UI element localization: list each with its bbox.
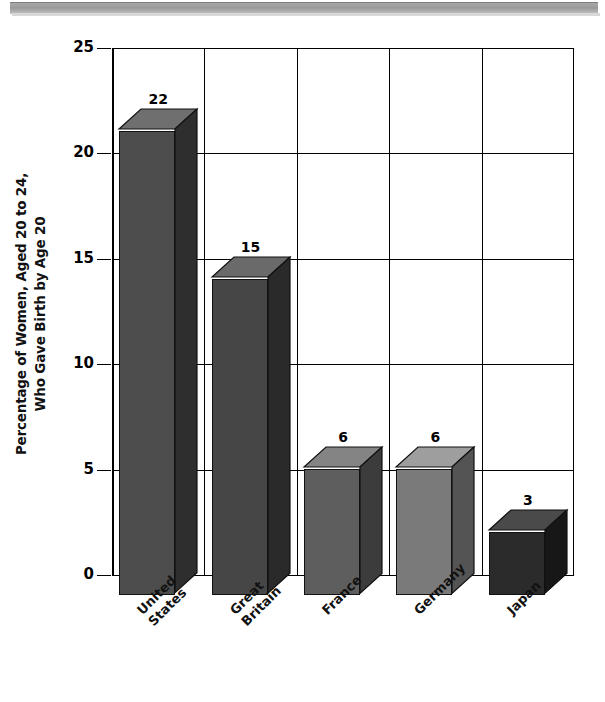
y-axis-tick — [97, 259, 111, 260]
y-axis-tick — [97, 470, 111, 471]
y-axis-tick-label: 20 — [34, 143, 94, 161]
gridline-horizontal — [112, 48, 574, 49]
y-axis-tick — [97, 364, 111, 365]
y-axis-tick-label: 15 — [34, 249, 94, 267]
bar-value-label: 6 — [313, 429, 373, 445]
bar-chart-figure: Percentage of Women, Aged 20 to 24, Who … — [0, 0, 605, 702]
y-axis-title: Percentage of Women, Aged 20 to 24, Who … — [8, 154, 54, 474]
plot-area: 0510152025 2215663 United StatesGreat Br… — [112, 48, 574, 575]
bar-3d-faces — [119, 109, 199, 595]
bar-side-face — [175, 109, 197, 593]
bar-value-label: 15 — [221, 239, 281, 255]
y-axis-tick-label: 10 — [34, 354, 94, 372]
y-axis-tick-label: 5 — [34, 460, 94, 478]
y-axis-title-line-2: Who Gave Birth by Age 20 — [31, 217, 50, 412]
y-axis-title-line-1: Percentage of Women, Aged 20 to 24, — [12, 173, 31, 455]
bar-value-label: 6 — [405, 429, 465, 445]
gridline-vertical — [389, 48, 390, 575]
bar-value-label: 3 — [498, 492, 558, 508]
gridline-vertical — [204, 48, 205, 575]
y-axis-tick-label: 0 — [34, 565, 94, 583]
bar-side-face — [268, 257, 290, 593]
y-axis-tick — [97, 48, 111, 49]
y-axis-tick — [97, 153, 111, 154]
bar-united-states[interactable]: 22 — [119, 111, 197, 595]
gridline-vertical — [482, 48, 483, 575]
bar-value-label: 22 — [128, 91, 188, 107]
y-axis-tick — [97, 575, 111, 576]
y-axis-tick-label: 25 — [34, 38, 94, 56]
gridline-vertical — [297, 48, 298, 575]
